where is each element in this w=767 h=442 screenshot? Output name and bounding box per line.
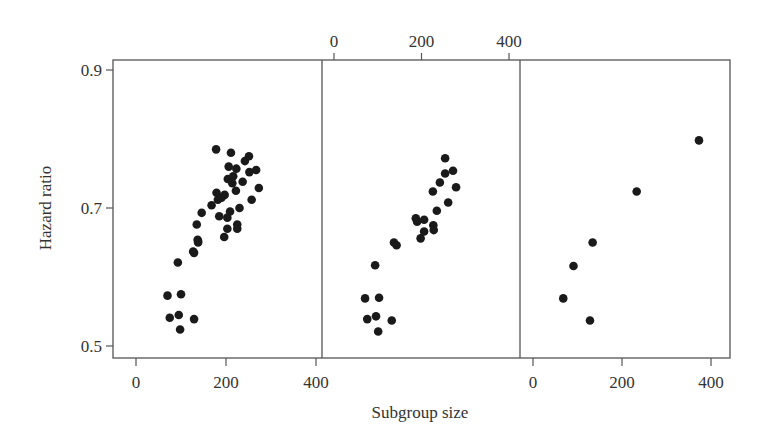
data-point bbox=[441, 169, 450, 178]
data-point bbox=[588, 238, 597, 247]
data-point bbox=[371, 261, 380, 270]
data-point bbox=[361, 294, 370, 303]
data-point bbox=[223, 213, 232, 222]
data-point bbox=[632, 187, 641, 196]
y-tick-label: 0.5 bbox=[81, 337, 102, 356]
data-point bbox=[233, 224, 242, 233]
x-tick-label: 200 bbox=[213, 373, 239, 392]
data-point bbox=[174, 311, 183, 320]
data-point bbox=[444, 198, 453, 207]
data-point bbox=[416, 234, 425, 243]
data-point bbox=[163, 291, 172, 300]
panel-1-points bbox=[163, 145, 263, 334]
data-point bbox=[255, 184, 264, 193]
data-point bbox=[194, 237, 203, 246]
data-point bbox=[436, 178, 445, 187]
data-point bbox=[559, 294, 568, 303]
data-point bbox=[363, 315, 372, 324]
scatter-chart: 0.50.70.9 020040002004000200400 Hazard r… bbox=[0, 0, 767, 442]
x-tick-label: 0 bbox=[529, 373, 538, 392]
x-axis-title: Subgroup size bbox=[372, 403, 469, 422]
panel-1: 0200400 bbox=[132, 358, 329, 392]
panel-2-points bbox=[361, 154, 461, 336]
y-axis-title: Hazard ratio bbox=[36, 166, 55, 250]
x-tick-label: 200 bbox=[409, 32, 435, 51]
data-point bbox=[449, 166, 458, 175]
data-point bbox=[387, 316, 396, 325]
x-tick-label: 0 bbox=[330, 32, 339, 51]
data-point bbox=[586, 316, 595, 325]
data-point bbox=[223, 224, 232, 233]
x-tick-label: 0 bbox=[132, 373, 141, 392]
data-point bbox=[241, 157, 250, 166]
data-point bbox=[238, 177, 247, 186]
data-point bbox=[413, 218, 422, 227]
data-points bbox=[163, 136, 703, 336]
data-point bbox=[441, 154, 450, 163]
data-point bbox=[433, 206, 442, 215]
data-point bbox=[232, 186, 241, 195]
data-point bbox=[252, 166, 261, 175]
data-point bbox=[695, 136, 704, 145]
data-point bbox=[212, 145, 221, 154]
panel-3-points bbox=[559, 136, 703, 325]
data-point bbox=[569, 262, 578, 271]
data-point bbox=[190, 315, 199, 324]
data-point bbox=[174, 258, 183, 267]
data-point bbox=[197, 209, 206, 218]
data-point bbox=[247, 195, 256, 204]
y-axis: 0.50.70.9 bbox=[81, 61, 113, 356]
data-point bbox=[372, 312, 381, 321]
panel-3: 0200400 bbox=[529, 358, 724, 392]
data-point bbox=[177, 290, 186, 299]
data-point bbox=[429, 226, 438, 235]
data-point bbox=[392, 241, 401, 250]
x-tick-label: 200 bbox=[609, 373, 635, 392]
data-point bbox=[235, 204, 244, 213]
data-point bbox=[220, 233, 229, 242]
data-point bbox=[190, 249, 199, 258]
x-tick-label: 400 bbox=[496, 32, 522, 51]
data-point bbox=[192, 220, 201, 229]
panel-2: 0200400 bbox=[330, 32, 522, 60]
frame-border bbox=[113, 60, 730, 358]
data-point bbox=[224, 162, 233, 171]
data-point bbox=[375, 293, 384, 302]
data-point bbox=[227, 149, 236, 158]
x-axes: 020040002004000200400 bbox=[132, 32, 724, 392]
data-point bbox=[165, 313, 174, 322]
data-point bbox=[215, 212, 224, 221]
data-point bbox=[452, 183, 461, 192]
data-point bbox=[228, 179, 237, 188]
x-tick-label: 400 bbox=[698, 373, 724, 392]
y-tick-label: 0.9 bbox=[81, 61, 102, 80]
data-point bbox=[176, 325, 185, 334]
y-tick-label: 0.7 bbox=[81, 199, 103, 218]
data-point bbox=[232, 164, 241, 173]
data-point bbox=[207, 201, 216, 210]
data-point bbox=[374, 327, 383, 336]
plot-frame bbox=[113, 60, 730, 358]
x-tick-label: 400 bbox=[303, 373, 329, 392]
data-point bbox=[429, 187, 438, 196]
